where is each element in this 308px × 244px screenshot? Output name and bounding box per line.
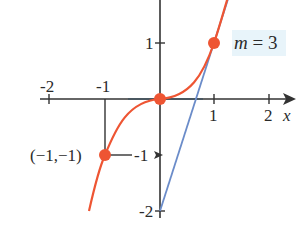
x-tick-label-2: 2 xyxy=(264,106,273,125)
x-tick-label-minus-1: -1 xyxy=(96,77,110,96)
y-tick-label-minus-1: -1 xyxy=(134,146,148,165)
point-origin xyxy=(154,93,166,105)
x-tick-label-minus-2: -2 xyxy=(40,77,54,96)
cubic-curve xyxy=(89,0,228,211)
point-1-1 xyxy=(208,37,220,49)
slope-annotation: m = 3 xyxy=(234,32,277,53)
point-minus1-minus1 xyxy=(99,149,111,161)
cubic-tangent-chart: -2 -1 1 2 x 1 -1 -2 (−1,−1) m = 3 xyxy=(0,0,308,244)
y-tick-label-minus-2: -2 xyxy=(139,202,153,221)
x-axis-label: x xyxy=(282,106,291,125)
x-tick-label-1: 1 xyxy=(209,106,218,125)
point-label-minus1-minus1: (−1,−1) xyxy=(30,146,82,165)
slope-value: = 3 xyxy=(248,32,278,53)
y-tick-label-1: 1 xyxy=(145,34,154,53)
slope-variable: m xyxy=(234,32,248,53)
y-minus-1-arrow-icon xyxy=(154,151,163,159)
